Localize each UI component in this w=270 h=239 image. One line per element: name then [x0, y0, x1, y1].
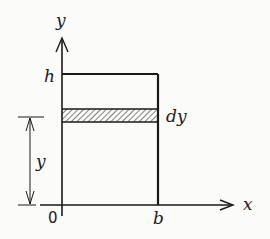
x-axis-label: x [243, 194, 253, 214]
dimension-label: y [35, 151, 46, 171]
strip [62, 109, 158, 122]
origin-label: 0 [48, 209, 58, 227]
height-label: h [44, 66, 55, 86]
y-axis-label: y [55, 10, 66, 30]
strip-thickness-label: dy [166, 106, 187, 126]
diagram-canvas: y x h dy y 0 b [0, 0, 270, 239]
width-label: b [153, 208, 164, 228]
strip-hatch [62, 109, 158, 122]
x-axis [40, 200, 233, 210]
y-axis [56, 38, 68, 216]
rectangle [62, 74, 158, 205]
